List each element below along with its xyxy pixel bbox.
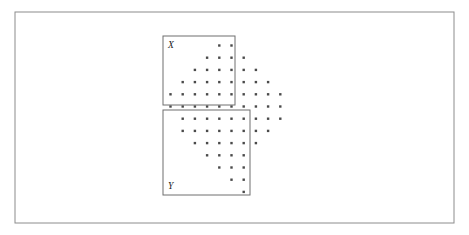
lattice-dot bbox=[279, 93, 281, 95]
lattice-dot bbox=[267, 93, 269, 95]
lattice-dot bbox=[243, 191, 245, 193]
lattice-dot bbox=[218, 81, 220, 83]
lattice-dot bbox=[218, 130, 220, 132]
lattice-dot bbox=[255, 69, 257, 71]
lattice-dot bbox=[206, 81, 208, 83]
lattice-dot bbox=[182, 130, 184, 132]
lattice-dot bbox=[230, 166, 232, 168]
lattice-dot bbox=[243, 179, 245, 181]
lattice-dot bbox=[206, 118, 208, 120]
lattice-dot bbox=[230, 130, 232, 132]
lattice-dot bbox=[194, 81, 196, 83]
lattice-dot bbox=[218, 57, 220, 59]
lattice-dot bbox=[206, 105, 208, 107]
lattice-dot bbox=[255, 105, 257, 107]
lattice-dot bbox=[255, 81, 257, 83]
lattice-dot bbox=[243, 154, 245, 156]
lattice-dot bbox=[230, 44, 232, 46]
lattice-dot bbox=[194, 142, 196, 144]
lattice-dot bbox=[218, 69, 220, 71]
lattice-dot bbox=[218, 166, 220, 168]
lattice-dot bbox=[218, 154, 220, 156]
lattice-dot bbox=[218, 142, 220, 144]
lattice-dot bbox=[218, 93, 220, 95]
lattice-dot bbox=[169, 93, 171, 95]
lattice-dot bbox=[218, 105, 220, 107]
figure-root: XY bbox=[0, 0, 469, 235]
lattice-dot bbox=[206, 154, 208, 156]
lattice-dot bbox=[206, 69, 208, 71]
lattice-dot bbox=[206, 130, 208, 132]
lattice-dot bbox=[230, 142, 232, 144]
lattice-dot bbox=[194, 105, 196, 107]
lattice-dot bbox=[230, 69, 232, 71]
lattice-dot bbox=[243, 93, 245, 95]
lattice-dot bbox=[194, 93, 196, 95]
lattice-dot bbox=[243, 57, 245, 59]
lattice-dot bbox=[230, 179, 232, 181]
lattice-dot bbox=[255, 118, 257, 120]
lattice-dot bbox=[243, 118, 245, 120]
lattice-dot bbox=[206, 93, 208, 95]
lattice-dot bbox=[279, 118, 281, 120]
lattice-dot bbox=[255, 130, 257, 132]
lattice-dot bbox=[267, 130, 269, 132]
lattice-dot bbox=[243, 142, 245, 144]
lattice-dot bbox=[169, 105, 171, 107]
lattice-dot bbox=[206, 57, 208, 59]
lattice-dot bbox=[255, 93, 257, 95]
lattice-diagram-svg: XY bbox=[0, 0, 469, 235]
lattice-dot bbox=[230, 93, 232, 95]
lattice-dot bbox=[267, 105, 269, 107]
lattice-dot bbox=[267, 118, 269, 120]
lattice-dot bbox=[182, 105, 184, 107]
region-x-label: X bbox=[167, 40, 175, 50]
lattice-dot bbox=[230, 57, 232, 59]
lattice-dot bbox=[243, 69, 245, 71]
lattice-dot bbox=[230, 154, 232, 156]
lattice-dot bbox=[255, 142, 257, 144]
lattice-dot bbox=[279, 105, 281, 107]
lattice-dot bbox=[230, 81, 232, 83]
lattice-dot bbox=[243, 130, 245, 132]
lattice-dot bbox=[206, 142, 208, 144]
lattice-dot bbox=[230, 118, 232, 120]
lattice-dot bbox=[182, 118, 184, 120]
lattice-dot bbox=[194, 69, 196, 71]
lattice-dot bbox=[267, 81, 269, 83]
lattice-dot bbox=[182, 93, 184, 95]
lattice-dot bbox=[243, 166, 245, 168]
lattice-dot bbox=[182, 81, 184, 83]
lattice-dot bbox=[230, 105, 232, 107]
lattice-dot bbox=[218, 118, 220, 120]
lattice-dot bbox=[243, 105, 245, 107]
lattice-dot bbox=[194, 130, 196, 132]
lattice-dot bbox=[194, 118, 196, 120]
lattice-dot bbox=[218, 44, 220, 46]
lattice-dot bbox=[243, 81, 245, 83]
